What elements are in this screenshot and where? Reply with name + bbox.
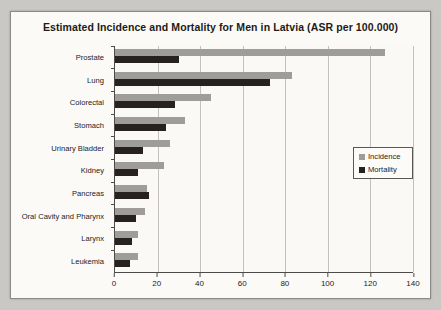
mortality-bar [115, 238, 132, 245]
y-axis-labels: ProstateLungColorectalStomachUrinary Bla… [11, 46, 110, 273]
legend-item: Incidence [359, 152, 408, 161]
mortality-bar [115, 260, 130, 267]
mortality-bar [115, 101, 175, 108]
bar-group [115, 114, 413, 137]
legend-item: Mortality [359, 165, 408, 174]
bar-group [115, 205, 413, 228]
bar-group [115, 46, 413, 69]
x-tick-label: 40 [195, 273, 204, 288]
incidence-bar [115, 231, 138, 238]
bar-group [115, 250, 413, 273]
x-tick-label: 100 [321, 273, 334, 288]
mortality-bar [115, 124, 166, 131]
incidence-bar [115, 72, 292, 79]
mortality-bar [115, 147, 143, 154]
mortality-bar [115, 169, 138, 176]
incidence-bar [115, 162, 164, 169]
gridline [413, 46, 414, 272]
bar-group [115, 228, 413, 251]
incidence-bar [115, 140, 170, 147]
x-tick-label: 60 [238, 273, 247, 288]
category-label: Oral Cavity and Pharynx [11, 205, 110, 228]
x-tick-label: 120 [364, 273, 377, 288]
category-label: Larynx [11, 228, 110, 251]
x-tick-label: 20 [152, 273, 161, 288]
category-label: Prostate [11, 46, 110, 69]
category-label: Pancreas [11, 182, 110, 205]
incidence-bar [115, 94, 211, 101]
category-label: Kidney [11, 159, 110, 182]
x-tick-label: 80 [280, 273, 289, 288]
category-label: Colorectal [11, 91, 110, 114]
incidence-bar [115, 49, 385, 56]
x-axis: 020406080100120140 [114, 273, 413, 293]
incidence-bar [115, 185, 147, 192]
legend-label: Incidence [368, 152, 401, 161]
incidence-bar [115, 208, 145, 215]
legend-swatch-icon [359, 154, 365, 160]
chart-title: Estimated Incidence and Mortality for Me… [11, 21, 430, 33]
mortality-bar [115, 215, 136, 222]
legend: IncidenceMortality [353, 147, 413, 179]
chart-container: Estimated Incidence and Mortality for Me… [10, 11, 431, 299]
legend-label: Mortality [368, 165, 397, 174]
mortality-bar [115, 79, 270, 86]
plot-area: IncidenceMortality [114, 46, 413, 273]
incidence-bar [115, 253, 138, 260]
category-label: Stomach [11, 114, 110, 137]
incidence-bar [115, 117, 185, 124]
category-label: Leukemia [11, 250, 110, 273]
x-tick-label: 140 [406, 273, 419, 288]
bar-group [115, 91, 413, 114]
category-label: Urinary Bladder [11, 137, 110, 160]
category-label: Lung [11, 69, 110, 92]
bar-group [115, 182, 413, 205]
mortality-bar [115, 192, 149, 199]
bar-group [115, 69, 413, 92]
mortality-bar [115, 56, 179, 63]
x-tick-label: 0 [112, 273, 116, 288]
legend-swatch-icon [359, 167, 365, 173]
